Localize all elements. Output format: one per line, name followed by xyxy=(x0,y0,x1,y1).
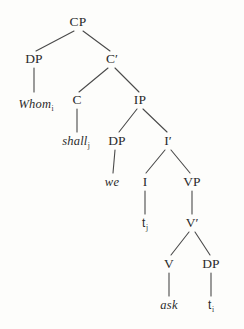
tree-node-whom: Whomi xyxy=(18,98,53,111)
tree-node-i: I xyxy=(143,175,148,189)
tree-edge-ibar-to-i xyxy=(146,150,165,173)
tree-node-cbar: C′ xyxy=(106,52,118,66)
tree-node-tj: tj xyxy=(142,217,148,229)
tree-node-ibar: I′ xyxy=(164,134,171,148)
tree-node-we: we xyxy=(105,176,119,189)
tree-node-index-subscript: i xyxy=(212,305,214,314)
tree-node-label: V′ xyxy=(186,215,199,230)
tree-node-vbar: V′ xyxy=(186,216,199,230)
tree-node-c: C xyxy=(72,93,81,107)
syntax-tree-diagram: CPDPC′WhomiCIPshalljDPI′weIVPtjV′VDPaskt… xyxy=(0,0,244,329)
tree-node-ip: IP xyxy=(134,93,146,107)
tree-branch-lines xyxy=(0,0,244,329)
tree-node-ti: ti xyxy=(208,299,214,311)
tree-node-cp: CP xyxy=(70,15,87,29)
tree-edge-cbar-to-c xyxy=(79,68,108,92)
tree-node-dp1: DP xyxy=(25,52,43,66)
tree-node-label: ask xyxy=(160,298,177,312)
tree-node-index-subscript: i xyxy=(52,104,54,113)
tree-node-label: C′ xyxy=(106,51,118,66)
tree-edge-vbar-to-dp3 xyxy=(195,232,210,255)
tree-node-label: V xyxy=(164,256,174,271)
tree-node-label: we xyxy=(105,175,119,189)
tree-node-dp3: DP xyxy=(202,257,220,271)
tree-node-label: DP xyxy=(25,51,43,66)
tree-edge-cbar-to-ip xyxy=(115,68,139,92)
tree-node-index-subscript: j xyxy=(146,223,148,232)
tree-node-label: shall xyxy=(62,134,87,148)
tree-node-dp2: DP xyxy=(108,134,126,148)
tree-node-label: Whom xyxy=(18,97,51,111)
tree-edge-vbar-to-v xyxy=(171,232,189,255)
tree-edge-ibar-to-vp xyxy=(171,150,190,173)
tree-node-label: C xyxy=(72,92,81,107)
tree-node-label: DP xyxy=(108,133,126,148)
tree-node-label: t xyxy=(142,216,146,230)
tree-node-label: I′ xyxy=(164,133,171,148)
tree-edge-ip-to-dp2 xyxy=(119,109,137,132)
tree-node-label: I xyxy=(143,174,148,189)
tree-node-label: t xyxy=(208,298,212,312)
tree-edge-dp2-to-we xyxy=(113,150,115,173)
tree-node-v: V xyxy=(164,257,174,271)
tree-edge-cp-to-cbar xyxy=(83,31,110,51)
tree-node-label: IP xyxy=(134,92,146,107)
tree-node-shall: shallj xyxy=(62,135,90,148)
tree-node-label: DP xyxy=(202,256,220,271)
tree-node-label: VP xyxy=(183,174,201,189)
tree-edge-cp-to-dp1 xyxy=(36,31,74,51)
tree-node-ask: ask xyxy=(160,299,177,312)
tree-edge-ip-to-ibar xyxy=(143,109,167,132)
tree-node-index-subscript: j xyxy=(88,141,90,150)
tree-node-label: CP xyxy=(70,14,87,29)
tree-node-vp: VP xyxy=(183,175,201,189)
